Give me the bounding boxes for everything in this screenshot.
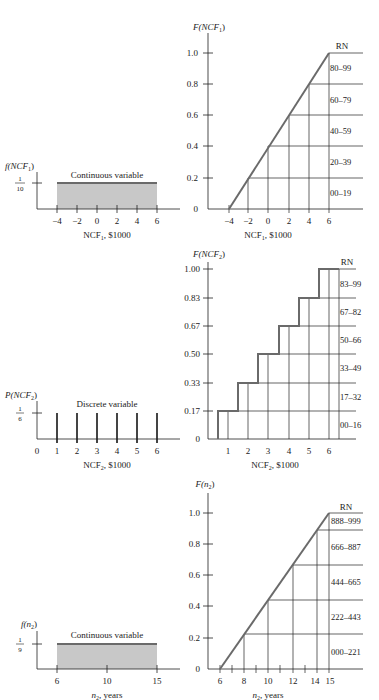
- svg-text:15: 15: [326, 676, 336, 686]
- pdf-ncf1-ylabel: f(NCF1): [5, 161, 34, 172]
- svg-text:2: 2: [75, 446, 80, 456]
- rn-ranges: 00–1617–3233–49 50–6667–8283–99: [340, 279, 361, 430]
- svg-text:4: 4: [115, 446, 120, 456]
- svg-text:3: 3: [266, 446, 271, 456]
- pdf-ncf1-plot: f(NCF1) 1 10 Continuous variable −4−20 2…: [5, 161, 180, 241]
- svg-text:0: 0: [35, 446, 40, 456]
- cdf-ncf2-plot: F(NCF2) 00.170.33 0.500.670.83 1.00 123 …: [184, 249, 361, 471]
- svg-text:6: 6: [327, 216, 332, 226]
- density-area: [57, 183, 157, 209]
- svg-text:2: 2: [115, 216, 120, 226]
- pmf-ncf2-plot: P(NCF2) 1 6 Discrete variable 012 345 6 …: [4, 390, 180, 471]
- pmf-ncf2-ylabel: P(NCF2): [4, 390, 37, 401]
- svg-text:1.0: 1.0: [189, 508, 201, 518]
- svg-text:80–99: 80–99: [330, 63, 351, 73]
- x-tick-labels: 6810 121415: [218, 676, 335, 686]
- svg-text:1: 1: [55, 446, 60, 456]
- x-tick-labels: 012 345 6: [35, 446, 160, 456]
- svg-text:83–99: 83–99: [340, 279, 361, 289]
- svg-text:0.50: 0.50: [184, 349, 200, 359]
- svg-text:6: 6: [155, 446, 160, 456]
- pmf-tick-den: 6: [18, 415, 22, 423]
- svg-text:0: 0: [196, 434, 201, 444]
- svg-text:33–49: 33–49: [340, 363, 361, 373]
- cdf-line: [229, 53, 329, 209]
- svg-text:10: 10: [103, 676, 113, 686]
- svg-text:6: 6: [327, 446, 332, 456]
- svg-text:222–443: 222–443: [331, 612, 361, 622]
- probability-bars: [57, 413, 157, 443]
- svg-text:4: 4: [307, 216, 312, 226]
- svg-text:0: 0: [196, 664, 201, 674]
- pdf-ncf1-xlabel: NCF1, $1000: [83, 230, 131, 241]
- svg-text:12: 12: [289, 676, 298, 686]
- svg-text:0.6: 0.6: [187, 110, 199, 120]
- cdf-n2-ylabel: F(n2): [195, 479, 215, 490]
- y-tick-labels: 00.170.33 0.500.670.83 1.00: [184, 264, 200, 444]
- pdf-n2-tick-num: 1: [18, 636, 22, 644]
- svg-text:14: 14: [311, 676, 321, 686]
- cdf-ncf1-ylabel: F(NCF1): [192, 22, 225, 33]
- cdf-n2-xlabel: n2, years: [253, 690, 284, 700]
- svg-text:8: 8: [242, 676, 247, 686]
- x-tick-labels: −4−20 246: [52, 216, 160, 226]
- pdf-n2-xlabel: n2, years: [92, 690, 123, 700]
- x-tick-labels: 123 456: [226, 446, 332, 456]
- cdf-ncf1-xlabel: NCF1, $1000: [244, 230, 292, 241]
- svg-text:67–82: 67–82: [340, 307, 361, 317]
- svg-text:0.67: 0.67: [184, 321, 200, 331]
- svg-text:0.4: 0.4: [189, 601, 201, 611]
- svg-text:0: 0: [95, 216, 100, 226]
- svg-text:−2: −2: [243, 216, 253, 226]
- diagram-canvas: f(NCF1) 1 10 Continuous variable −4−20 2…: [0, 0, 379, 700]
- svg-text:10: 10: [264, 676, 274, 686]
- svg-text:17–32: 17–32: [340, 392, 361, 402]
- pmf-tick-num: 1: [18, 405, 22, 413]
- svg-text:6: 6: [155, 216, 160, 226]
- pmf-ncf2-title: Discrete variable: [76, 399, 137, 409]
- svg-text:0.2: 0.2: [187, 173, 198, 183]
- svg-text:0.33: 0.33: [184, 378, 200, 388]
- svg-text:4: 4: [287, 446, 292, 456]
- svg-text:0.8: 0.8: [187, 79, 199, 89]
- svg-text:0.2: 0.2: [189, 633, 200, 643]
- svg-text:5: 5: [307, 446, 312, 456]
- rn-header: RN: [336, 41, 349, 51]
- svg-text:4: 4: [135, 216, 140, 226]
- svg-text:50–66: 50–66: [340, 335, 361, 345]
- pmf-ncf2-xlabel: NCF2, $1000: [83, 460, 131, 471]
- pdf-n2-plot: f(n2) 1 9 Continuous variable 61015 n2, …: [16, 619, 180, 700]
- svg-text:60–79: 60–79: [330, 95, 351, 105]
- svg-text:40–59: 40–59: [330, 126, 351, 136]
- svg-text:0.8: 0.8: [189, 539, 201, 549]
- svg-text:5: 5: [135, 446, 140, 456]
- svg-text:2: 2: [246, 446, 251, 456]
- svg-text:0.83: 0.83: [184, 293, 200, 303]
- svg-text:0: 0: [194, 204, 199, 214]
- svg-text:888–999: 888–999: [331, 516, 361, 526]
- svg-text:0.17: 0.17: [184, 406, 200, 416]
- svg-text:666–887: 666–887: [331, 542, 361, 552]
- pdf-n2-tick-den: 9: [18, 646, 22, 654]
- svg-text:00–19: 00–19: [330, 188, 351, 198]
- svg-text:15: 15: [153, 676, 163, 686]
- svg-text:6: 6: [55, 676, 60, 686]
- rn-header: RN: [341, 257, 354, 267]
- pdf-ncf1-tick-den: 10: [17, 185, 25, 193]
- cdf-n2-plot: F(n2) 00.20.4 0.60.81.0 6810 121415 RN: [189, 479, 363, 700]
- svg-text:3: 3: [95, 446, 100, 456]
- svg-text:1.0: 1.0: [187, 48, 199, 58]
- svg-text:00–16: 00–16: [340, 420, 361, 430]
- pdf-n2-title: Continuous variable: [71, 630, 144, 640]
- cdf-ncf1-plot: F(NCF1) 00.20.4 0.60.81.0 −4−20 246 RN 0…: [187, 22, 363, 241]
- svg-text:1.00: 1.00: [184, 264, 200, 274]
- rn-header: RN: [340, 502, 353, 512]
- x-tick-labels: −4−20 246: [224, 216, 332, 226]
- x-tick-labels: 61015: [55, 676, 162, 686]
- svg-text:−4: −4: [224, 216, 234, 226]
- y-tick-labels: 00.20.4 0.60.81.0: [187, 48, 199, 214]
- svg-text:0.6: 0.6: [189, 570, 201, 580]
- svg-text:000–221: 000–221: [331, 647, 361, 657]
- cdf-ncf2-xlabel: NCF2, $1000: [251, 460, 299, 471]
- cdf-line: [220, 513, 329, 669]
